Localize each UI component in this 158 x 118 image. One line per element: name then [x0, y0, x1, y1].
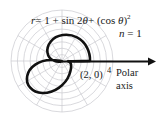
equation-exponent: 2	[127, 13, 131, 21]
parameter-n-variable: n	[119, 27, 125, 39]
polar-axis-label-line1: Polar	[116, 67, 138, 78]
polar-graph-figure: r= 1 + sin 2θ+ (cos θ)2 n = 1 (2, 0) 4 P…	[0, 0, 158, 118]
equation-cos: + (cos	[88, 14, 118, 26]
equation-body: = 1 + sin 2	[35, 14, 82, 26]
polar-axis-label: Polar axis	[116, 66, 138, 92]
equation-label: r= 1 + sin 2θ+ (cos θ)2	[31, 14, 131, 26]
parameter-n-value: = 1	[127, 27, 141, 39]
parameter-n-label: n = 1	[119, 28, 142, 39]
axis-tick-4-label: 4	[107, 66, 111, 75]
polar-axis-label-line2: axis	[116, 80, 133, 91]
point-coordinate-label: (2, 0)	[80, 70, 103, 81]
